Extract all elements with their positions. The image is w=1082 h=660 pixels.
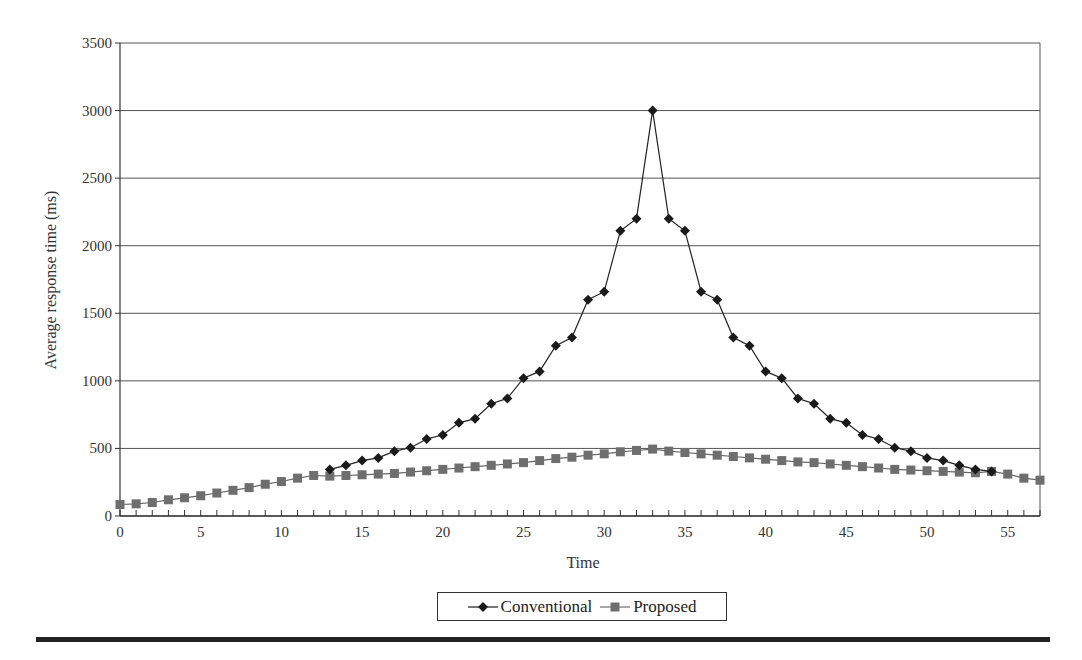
square-marker: [1019, 474, 1028, 483]
gridlines: [120, 43, 1040, 448]
square-marker: [454, 464, 463, 473]
y-tick-label: 2500: [82, 170, 112, 186]
y-tick-label: 2000: [82, 238, 112, 254]
legend-label-conventional: Conventional: [501, 597, 593, 617]
square-marker: [890, 465, 899, 474]
square-marker: [309, 471, 318, 480]
square-marker: [422, 466, 431, 475]
square-marker-line-icon: [600, 600, 630, 614]
x-axis-tick-labels: 0510152025303540455055: [116, 524, 1015, 540]
diamond-marker: [664, 214, 674, 224]
square-marker: [245, 483, 254, 492]
x-tick-label: 50: [920, 524, 935, 540]
line-chart: 0500100015002000250030003500 05101520253…: [0, 0, 1082, 660]
bottom-rule: [36, 637, 1050, 642]
square-marker: [584, 451, 593, 460]
x-tick-label: 20: [435, 524, 450, 540]
diamond-marker: [631, 214, 641, 224]
square-marker: [212, 489, 221, 498]
legend-label-proposed: Proposed: [633, 597, 696, 617]
square-marker: [600, 449, 609, 458]
square-marker: [116, 500, 125, 509]
square-marker: [132, 499, 141, 508]
square-marker: [1036, 476, 1045, 485]
square-marker: [503, 459, 512, 468]
diamond-marker: [535, 366, 545, 376]
diamond-marker: [567, 333, 577, 343]
square-marker: [148, 498, 157, 507]
diamond-marker: [712, 295, 722, 305]
square-marker: [697, 449, 706, 458]
diamond-marker: [438, 430, 448, 440]
y-tick-label: 1000: [82, 373, 112, 389]
x-tick-label: 0: [116, 524, 124, 540]
diamond-marker: [454, 418, 464, 428]
legend-item-conventional: Conventional: [468, 597, 593, 617]
square-marker: [729, 452, 738, 461]
axes: [115, 43, 1040, 516]
diamond-marker: [922, 453, 932, 463]
y-tick-label: 1500: [82, 305, 112, 321]
square-marker: [551, 454, 560, 463]
legend: Conventional Proposed: [437, 592, 727, 621]
diamond-marker: [857, 430, 867, 440]
diamond-marker: [551, 341, 561, 351]
y-tick-label: 3500: [82, 35, 112, 51]
diamond-marker: [599, 287, 609, 297]
square-marker: [293, 474, 302, 483]
square-marker: [567, 453, 576, 462]
legend-item-proposed: Proposed: [600, 597, 696, 617]
x-tick-label: 45: [839, 524, 854, 540]
square-marker: [632, 446, 641, 455]
diamond-marker: [874, 434, 884, 444]
x-tick-label: 35: [677, 524, 692, 540]
diamond-marker: [615, 226, 625, 236]
x-tick-label: 55: [1000, 524, 1015, 540]
square-marker: [939, 467, 948, 476]
diamond-marker: [744, 341, 754, 351]
square-marker: [842, 461, 851, 470]
square-marker: [826, 459, 835, 468]
square-marker: [793, 457, 802, 466]
square-marker: [923, 466, 932, 475]
diamond-marker: [583, 295, 593, 305]
square-marker: [664, 447, 673, 456]
series-proposed: [116, 445, 1045, 509]
diamond-marker: [938, 456, 948, 466]
y-tick-label: 3000: [82, 103, 112, 119]
square-marker: [906, 466, 915, 475]
square-marker: [487, 461, 496, 470]
square-marker: [228, 486, 237, 495]
x-tick-label: 40: [758, 524, 773, 540]
y-axis-title: Average response time (ms): [42, 191, 60, 370]
y-axis-tick-labels: 0500100015002000250030003500: [82, 35, 112, 524]
square-marker: [358, 470, 367, 479]
x-tick-label: 15: [355, 524, 370, 540]
square-marker: [406, 468, 415, 477]
square-marker: [164, 495, 173, 504]
x-tick-label: 30: [597, 524, 612, 540]
square-marker: [713, 451, 722, 460]
diamond-marker-line-icon: [468, 600, 498, 614]
diamond-marker: [406, 443, 416, 453]
square-marker: [180, 493, 189, 502]
x-tick-label: 10: [274, 524, 289, 540]
diamond-marker: [357, 456, 367, 466]
diamond-marker: [728, 333, 738, 343]
x-tick-label: 25: [516, 524, 531, 540]
square-marker: [777, 456, 786, 465]
square-marker: [761, 455, 770, 464]
square-marker: [616, 447, 625, 456]
square-marker: [341, 471, 350, 480]
x-axis-title: Time: [566, 554, 599, 571]
square-marker: [438, 465, 447, 474]
square-marker: [390, 469, 399, 478]
diamond-marker: [906, 446, 916, 456]
square-marker: [277, 477, 286, 486]
diamond-marker: [890, 443, 900, 453]
diamond-marker: [422, 434, 432, 444]
square-marker: [261, 480, 270, 489]
series-conventional: [325, 106, 997, 477]
diamond-marker: [696, 287, 706, 297]
diamond-marker: [373, 453, 383, 463]
